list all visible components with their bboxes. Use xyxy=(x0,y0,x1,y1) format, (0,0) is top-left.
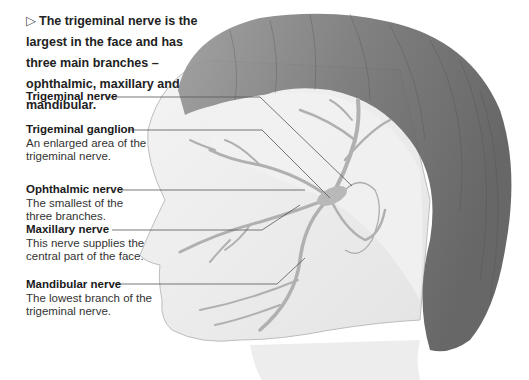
label-title: Ophthalmic nerve xyxy=(26,183,151,197)
label-description: An enlarged area of the trigeminal nerve… xyxy=(26,137,166,164)
label-mandibular-nerve: Mandibular nerve The lowest branch of th… xyxy=(26,278,166,319)
label-description: The smallest of the three branches. xyxy=(26,197,151,224)
label-description: The lowest branch of the trigeminal nerv… xyxy=(26,292,166,319)
label-trigeminal-ganglion: Trigeminal ganglion An enlarged area of … xyxy=(26,123,166,164)
label-title: Trigeminal nerve xyxy=(26,90,117,104)
neck xyxy=(250,340,420,380)
label-title: Mandibular nerve xyxy=(26,278,166,292)
label-description: This nerve supplies the central part of … xyxy=(26,237,156,264)
triangle-marker-icon: ▷ xyxy=(26,14,36,28)
label-maxillary-nerve: Maxillary nerve This nerve supplies the … xyxy=(26,223,156,264)
label-ophthalmic-nerve: Ophthalmic nerve The smallest of the thr… xyxy=(26,183,151,224)
label-title: Trigeminal ganglion xyxy=(26,123,166,137)
label-title: Maxillary nerve xyxy=(26,223,156,237)
label-trigeminal-nerve: Trigeminal nerve xyxy=(26,90,117,104)
